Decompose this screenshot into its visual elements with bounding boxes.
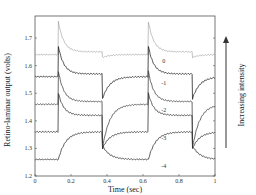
x-tick-label: 0.6 — [139, 178, 147, 184]
y-tick-label: 1.6 — [25, 63, 33, 69]
curve-label: -2 — [161, 107, 166, 113]
plot-frame — [35, 16, 215, 176]
y-tick-label: 1.4 — [25, 118, 33, 124]
x-tick-label: 0 — [34, 178, 37, 184]
curve-label: -4 — [161, 163, 166, 169]
curve-label: -3 — [161, 135, 166, 141]
chart: 00.20.40.60.811.21.31.41.51.61.7 0-1-2-3… — [0, 0, 256, 195]
y-tick-label: 1.2 — [25, 173, 33, 179]
y-tick-label: 1.7 — [25, 35, 33, 41]
curve--2 — [35, 71, 215, 149]
y-tick-label: 1.5 — [25, 90, 33, 96]
curve-0 — [35, 21, 215, 58]
intensity-annotation: Increasing intensity — [237, 64, 246, 127]
curve--4 — [35, 131, 215, 160]
x-axis-title: Time (sec) — [108, 185, 142, 194]
y-axis-title: Retino-laminar output (volts) — [3, 53, 12, 147]
x-tick-label: 0.8 — [175, 178, 183, 184]
axis-ticks: 00.20.40.60.811.21.31.41.51.61.7 — [25, 35, 217, 184]
arrow-head-icon — [223, 36, 229, 43]
y-tick-label: 1.3 — [25, 145, 33, 151]
curve-label: 0 — [162, 58, 165, 64]
x-tick-label: 0.4 — [103, 178, 111, 184]
x-tick-label: 0.2 — [67, 178, 75, 184]
curves — [35, 21, 215, 160]
curve-label: -1 — [161, 80, 166, 86]
x-tick-label: 1 — [214, 178, 217, 184]
